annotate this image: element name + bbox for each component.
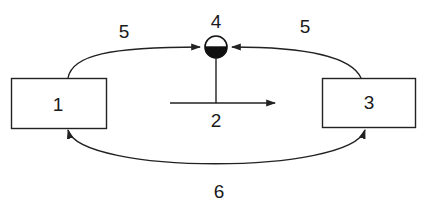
node-4 [205,36,227,58]
arrow-5-left [68,47,200,78]
arrow-6-label: 6 [214,181,225,202]
box-3-label: 3 [364,92,375,113]
box-1-label: 1 [53,94,64,115]
arrow-5-left-label: 5 [119,21,130,42]
arrow-6 [68,130,365,164]
arrow-2-label: 2 [211,110,222,131]
node-4-label: 4 [211,11,222,32]
arrow-5-right [232,47,361,78]
arrow-5-right-label: 5 [300,16,311,37]
diagram-canvas: 1 3 4 5 5 2 6 [0,0,426,210]
